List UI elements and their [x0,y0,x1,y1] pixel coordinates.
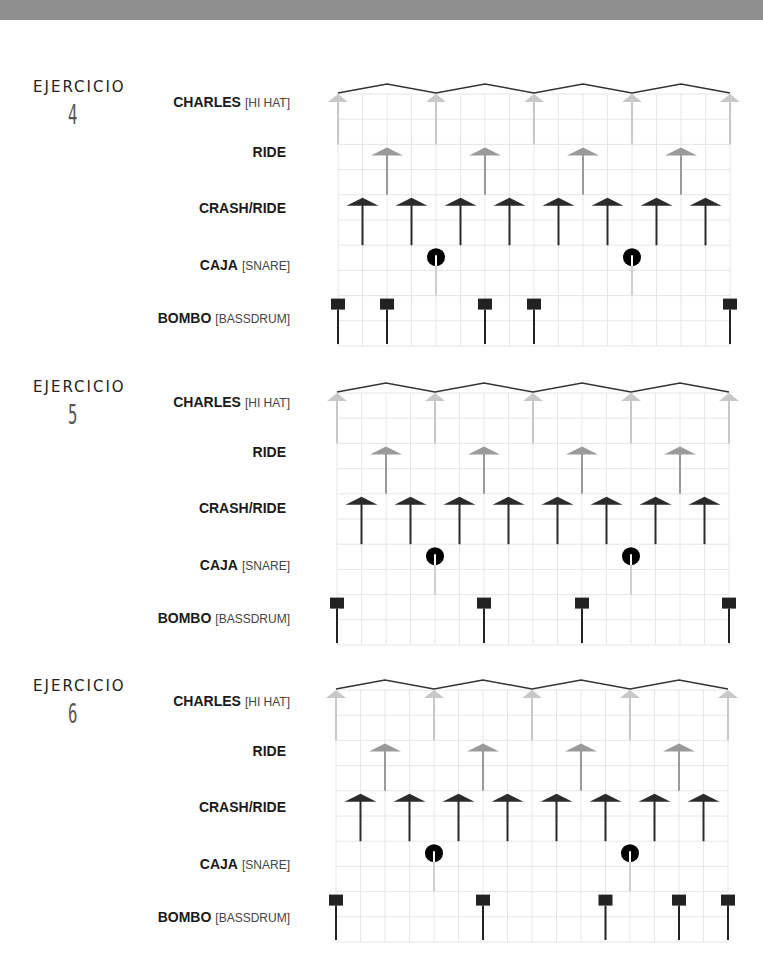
crash-note-icon [347,198,379,245]
ride-note-icon [468,446,500,493]
snare-note-icon [623,248,641,295]
accent-zigzag-line [336,680,728,689]
crash-note-icon [542,497,574,544]
crash-note-icon [444,497,476,544]
crash-note-icon [641,198,673,245]
crash-note-icon [541,794,573,841]
drum-grid [0,78,763,378]
crash-note-icon [640,497,672,544]
ride-note-icon [664,446,696,493]
crash-note-icon [492,794,524,841]
crash-note-icon [543,198,575,245]
crash-note-icon [639,794,671,841]
accent-zigzag-line [338,84,730,93]
crash-note-icon [592,198,624,245]
ride-note-icon [665,147,697,194]
crash-note-icon [494,198,526,245]
ride-note-icon [467,743,499,790]
top-band [0,0,763,20]
drum-grid [0,677,763,977]
crash-note-icon [443,794,475,841]
ride-note-icon [663,743,695,790]
crash-note-icon [690,198,722,245]
exercise-5: EJERCICIO 5 CHARLES[HI HAT] RIDE CRASH/R… [0,378,763,678]
crash-note-icon [396,198,428,245]
crash-note-icon [688,794,720,841]
crash-note-icon [493,497,525,544]
crash-note-icon [394,794,426,841]
drum-grid [0,378,763,678]
ride-note-icon [566,446,598,493]
exercise-6: EJERCICIO 6 CHARLES[HI HAT] RIDE CRASH/R… [0,677,763,977]
ride-note-icon [567,147,599,194]
crash-note-icon [345,794,377,841]
snare-note-icon [425,844,443,891]
exercise-4: EJERCICIO 4 CHARLES[HI HAT] RIDE CRASH/R… [0,78,763,378]
crash-note-icon [590,794,622,841]
ride-note-icon [369,743,401,790]
ride-note-icon [469,147,501,194]
snare-note-icon [426,547,444,594]
ride-note-icon [371,147,403,194]
crash-note-icon [346,497,378,544]
accent-zigzag-line [337,383,729,392]
crash-note-icon [689,497,721,544]
snare-note-icon [622,547,640,594]
ride-note-icon [565,743,597,790]
crash-note-icon [395,497,427,544]
ride-note-icon [370,446,402,493]
snare-note-icon [427,248,445,295]
snare-note-icon [621,844,639,891]
crash-note-icon [445,198,477,245]
crash-note-icon [591,497,623,544]
